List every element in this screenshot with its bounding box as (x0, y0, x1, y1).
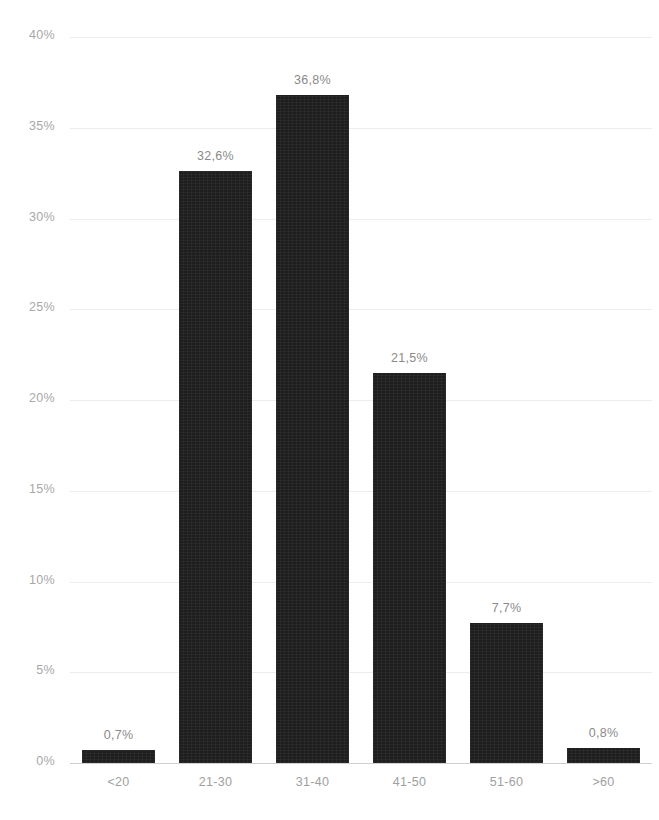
plot-area: 0,7%32,6%36,8%21,5%7,7%0,8% (70, 37, 652, 763)
bar-slot: 0,8% (567, 37, 640, 763)
y-axis-tick-label: 30% (0, 210, 55, 224)
x-axis-tick-label: 21-30 (167, 775, 264, 789)
bar-value-label: 36,8% (294, 73, 331, 87)
bar[interactable] (470, 623, 543, 763)
bar-slot: 0,7% (82, 37, 155, 763)
bar[interactable] (373, 373, 446, 763)
bar-value-label: 32,6% (197, 149, 234, 163)
bar[interactable] (276, 95, 349, 763)
y-axis-tick-label: 5% (0, 663, 55, 677)
x-axis-tick-label: 41-50 (361, 775, 458, 789)
y-axis-tick-label: 25% (0, 300, 55, 314)
x-axis-tick-label: >60 (555, 775, 652, 789)
x-axis-tick-label: <20 (70, 775, 167, 789)
y-axis-tick-label: 0% (0, 754, 55, 768)
y-axis-tick-label: 40% (0, 28, 55, 42)
bar-slot: 36,8% (276, 37, 349, 763)
bar[interactable] (82, 750, 155, 763)
bar[interactable] (567, 748, 640, 763)
x-axis-tick-label: 51-60 (458, 775, 555, 789)
bar-value-label: 0,7% (104, 728, 134, 742)
y-axis-tick-label: 15% (0, 482, 55, 496)
bar-value-label: 7,7% (492, 601, 522, 615)
bar-value-label: 21,5% (391, 351, 428, 365)
x-axis-labels: <2021-3031-4041-5051-60>60 (70, 775, 652, 799)
bar-slot: 32,6% (179, 37, 252, 763)
y-axis-tick-label: 35% (0, 119, 55, 133)
y-axis-tick-label: 10% (0, 573, 55, 587)
x-axis-tick-label: 31-40 (264, 775, 361, 789)
bar-slot: 7,7% (470, 37, 543, 763)
bar-value-label: 0,8% (589, 726, 619, 740)
x-axis-line (70, 763, 652, 764)
y-axis-tick-label: 20% (0, 391, 55, 405)
bar-chart: 0%5%10%15%20%25%30%35%40% 0,7%32,6%36,8%… (0, 0, 659, 820)
bar-slot: 21,5% (373, 37, 446, 763)
bar[interactable] (179, 171, 252, 763)
